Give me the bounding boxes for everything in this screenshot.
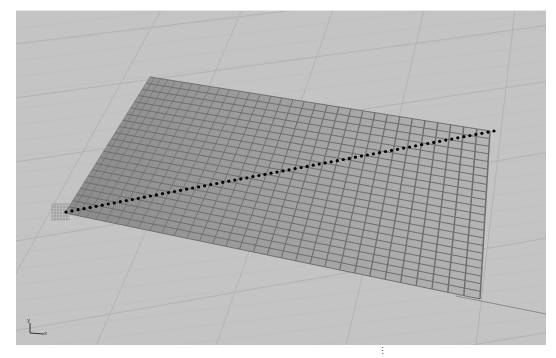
axis-widget: y x [24,317,48,337]
status-bar: ⋮ [0,345,556,358]
perspective-viewport[interactable]: y x [16,10,546,346]
axis-y-label: y [27,317,30,323]
viewport-canvas[interactable] [16,11,546,346]
axis-x-label: x [44,330,47,336]
resize-grip-icon[interactable]: ⋮ [378,347,384,356]
